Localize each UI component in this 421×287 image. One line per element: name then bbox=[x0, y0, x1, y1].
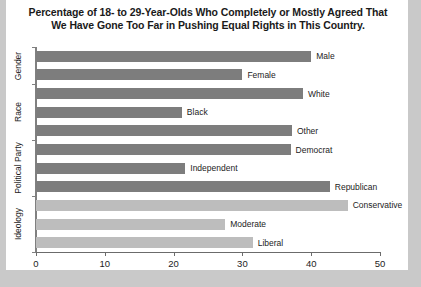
bar-label-moderate: Moderate bbox=[230, 219, 266, 229]
bar-row: Liberal bbox=[36, 237, 380, 248]
bar-row: Democrat bbox=[36, 144, 380, 155]
bar-row: Black bbox=[36, 107, 380, 118]
chart-title: Percentage of 18- to 29-Year-Olds Who Co… bbox=[16, 6, 400, 32]
x-axis-tick-label: 40 bbox=[306, 258, 317, 269]
bar-liberal[interactable] bbox=[36, 237, 253, 248]
chart-title-line-2: We Have Gone Too Far in Pushing Equal Ri… bbox=[16, 19, 400, 32]
bar-democrat[interactable] bbox=[36, 144, 291, 155]
bar-row: Republican bbox=[36, 181, 380, 192]
page-background: Percentage of 18- to 29-Year-Olds Who Co… bbox=[0, 0, 421, 287]
bar-republican[interactable] bbox=[36, 181, 330, 192]
bar-chart-figure: Percentage of 18- to 29-Year-Olds Who Co… bbox=[6, 0, 408, 270]
x-axis-tick-label: 0 bbox=[33, 258, 38, 269]
x-axis-tick bbox=[242, 252, 243, 256]
group-label-political-party: Political Party bbox=[13, 142, 23, 194]
x-axis-tick-label: 10 bbox=[100, 258, 111, 269]
bar-row: Male bbox=[36, 51, 380, 62]
bar-independent[interactable] bbox=[36, 163, 185, 174]
x-axis-tick bbox=[311, 252, 312, 256]
bar-moderate[interactable] bbox=[36, 219, 225, 230]
bar-row: White bbox=[36, 88, 380, 99]
bar-row: Female bbox=[36, 69, 380, 80]
bar-male[interactable] bbox=[36, 51, 311, 62]
bar-row: Independent bbox=[36, 163, 380, 174]
x-axis-line bbox=[36, 252, 380, 253]
plot-area: MaleFemaleWhiteBlackOtherDemocratIndepen… bbox=[36, 47, 380, 252]
x-axis-tick bbox=[36, 252, 37, 256]
bar-label-black: Black bbox=[187, 107, 208, 117]
bar-label-white: White bbox=[308, 89, 330, 99]
x-axis-tick bbox=[380, 252, 381, 256]
bar-female[interactable] bbox=[36, 69, 242, 80]
bar-label-republican: Republican bbox=[335, 182, 378, 192]
x-axis-tick-label: 30 bbox=[237, 258, 248, 269]
group-label-race: Race bbox=[13, 102, 23, 122]
bar-black[interactable] bbox=[36, 107, 182, 118]
group-label-gender: Gender bbox=[13, 51, 23, 79]
group-label-ideology: Ideology bbox=[13, 208, 23, 240]
bar-other[interactable] bbox=[36, 125, 292, 136]
chart-paper: Percentage of 18- to 29-Year-Olds Who Co… bbox=[6, 0, 408, 270]
bar-label-female: Female bbox=[247, 70, 275, 80]
bar-row: Moderate bbox=[36, 219, 380, 230]
x-axis-tick-label: 20 bbox=[168, 258, 179, 269]
bar-row: Other bbox=[36, 125, 380, 136]
bar-row: Conservative bbox=[36, 200, 380, 211]
bar-label-independent: Independent bbox=[190, 163, 237, 173]
x-axis-tick bbox=[105, 252, 106, 256]
chart-title-line-1: Percentage of 18- to 29-Year-Olds Who Co… bbox=[16, 6, 400, 19]
bar-conservative[interactable] bbox=[36, 200, 348, 211]
x-axis-tick bbox=[174, 252, 175, 256]
bar-label-male: Male bbox=[316, 51, 334, 61]
bar-label-other: Other bbox=[297, 126, 318, 136]
bar-white[interactable] bbox=[36, 88, 303, 99]
bar-label-liberal: Liberal bbox=[258, 238, 284, 248]
bar-label-conservative: Conservative bbox=[353, 200, 403, 210]
bar-label-democrat: Democrat bbox=[296, 145, 333, 155]
x-axis-tick-label: 50 bbox=[375, 258, 386, 269]
